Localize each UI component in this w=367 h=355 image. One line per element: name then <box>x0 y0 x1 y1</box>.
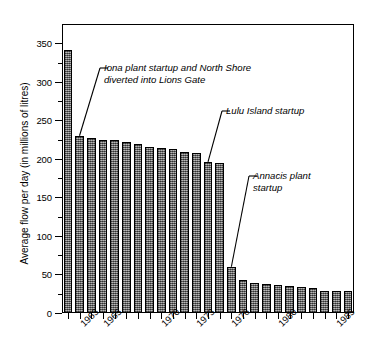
y-tick-50 <box>55 274 62 275</box>
y-tick-label-200: 200 <box>18 153 52 164</box>
y-tick-150 <box>55 197 62 198</box>
bar-1976 <box>227 267 236 313</box>
bar-1971 <box>169 149 178 313</box>
y-tick-200 <box>55 159 62 160</box>
bar-1984 <box>320 291 329 313</box>
y-tick-300 <box>55 82 62 83</box>
y-tick-0 <box>55 313 62 314</box>
bar-chart: Average flow per day (in millions of lit… <box>0 0 367 355</box>
bar-1979 <box>262 284 271 313</box>
bar-1980 <box>274 285 283 314</box>
y-tick-label-0: 0 <box>18 308 52 319</box>
y-tick-label-350: 350 <box>18 38 52 49</box>
y-tick-250 <box>55 120 62 121</box>
y-tick-label-250: 250 <box>18 115 52 126</box>
bar-1965 <box>99 140 108 313</box>
bar-1985 <box>332 291 341 313</box>
y-axis-labels: 050100150200250300350 <box>12 0 52 355</box>
annotation-lulu: Lulu Island startup <box>226 105 304 117</box>
annotation-iona: Iona plant startup and North Shore diver… <box>104 62 251 85</box>
bar-1978 <box>250 283 259 313</box>
bar-1962 <box>64 50 73 313</box>
bar-1966 <box>110 140 119 313</box>
y-tick-350 <box>55 43 62 44</box>
bar-1970 <box>157 148 166 313</box>
x-axis-labels: 1963196519701973197619801985 <box>62 313 354 355</box>
bar-1974 <box>204 162 213 313</box>
bar-1973 <box>192 153 201 313</box>
bar-1963 <box>75 136 84 313</box>
y-tick-100 <box>55 236 62 237</box>
y-tick-label-150: 150 <box>18 192 52 203</box>
bar-1983 <box>309 288 318 313</box>
bar-1975 <box>215 163 224 313</box>
bar-1967 <box>122 142 131 313</box>
bar-1968 <box>134 144 143 313</box>
bar-1969 <box>145 147 154 313</box>
y-tick-label-50: 50 <box>18 269 52 280</box>
bar-1982 <box>297 287 306 313</box>
annotation-annacis: Annacis plant startup <box>253 170 311 193</box>
y-tick-label-100: 100 <box>18 230 52 241</box>
bar-1972 <box>180 152 189 313</box>
y-tick-label-300: 300 <box>18 76 52 87</box>
bar-1964 <box>87 138 96 313</box>
